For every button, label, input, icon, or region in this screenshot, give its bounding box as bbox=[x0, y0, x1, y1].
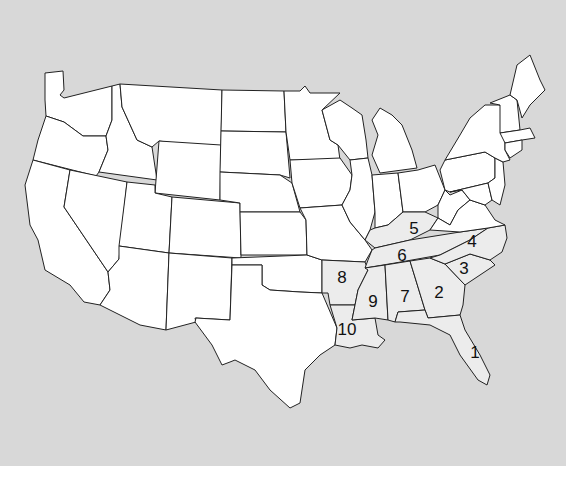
state-label-1: 1 bbox=[470, 343, 479, 362]
state-label-7: 7 bbox=[400, 287, 409, 306]
state-kansas[interactable] bbox=[240, 212, 307, 255]
state-north-dakota[interactable] bbox=[221, 90, 286, 132]
state-label-4: 4 bbox=[467, 232, 476, 251]
state-iowa[interactable] bbox=[290, 158, 352, 208]
state-michigan[interactable] bbox=[372, 108, 417, 173]
state-south-dakota[interactable] bbox=[220, 131, 290, 178]
state-label-6: 6 bbox=[397, 246, 406, 265]
us-map: 12345678910 bbox=[0, 0, 584, 482]
state-colorado[interactable] bbox=[169, 197, 241, 258]
state-wyoming[interactable] bbox=[155, 141, 221, 200]
state-label-5: 5 bbox=[409, 219, 418, 238]
state-label-10: 10 bbox=[338, 320, 357, 339]
state-label-2: 2 bbox=[434, 283, 443, 302]
state-label-9: 9 bbox=[368, 292, 377, 311]
state-label-8: 8 bbox=[337, 268, 346, 287]
state-label-3: 3 bbox=[459, 259, 468, 278]
